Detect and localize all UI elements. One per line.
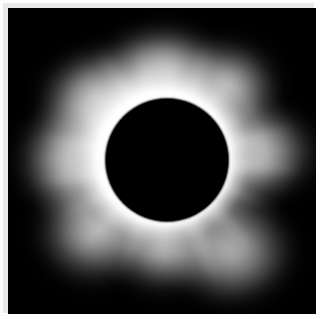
eclipse-photo-canvas xyxy=(8,8,316,314)
moon-silhouette-disk xyxy=(106,99,228,221)
eclipse-image-viewer xyxy=(0,0,320,319)
photo-frame-border xyxy=(3,3,314,313)
